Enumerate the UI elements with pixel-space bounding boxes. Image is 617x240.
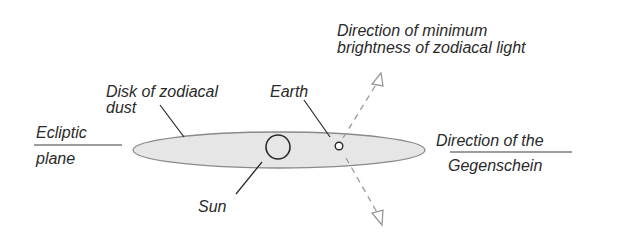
zodiacal-dust-disk — [133, 132, 425, 168]
disk-leader-line — [160, 105, 184, 137]
zodiacal-diagram: Ecliptic plane Disk of zodiacal dust Ear… — [0, 0, 617, 240]
earth-icon — [335, 142, 343, 150]
gegenschein-label-line2: Gegenschein — [448, 157, 542, 174]
min-brightness-direction-line — [343, 83, 377, 138]
min-brightness-label-line1: Direction of minimum — [337, 22, 487, 39]
earth-label: Earth — [270, 83, 308, 100]
min-brightness-label-line2: brightness of zodiacal light — [337, 39, 526, 56]
min-brightness-arrowhead-icon — [372, 73, 383, 86]
sun-label: Sun — [198, 198, 227, 215]
lower-arrowhead-icon — [372, 210, 383, 225]
disk-label-line1: Disk of zodiacal — [106, 83, 218, 100]
earth-leader-line — [304, 100, 330, 137]
disk-label-line2: dust — [106, 99, 137, 116]
gegenschein-label-line1: Direction of the — [436, 132, 544, 149]
ecliptic-label-line2: plane — [35, 150, 75, 167]
ecliptic-label-line1: Ecliptic — [36, 124, 87, 141]
gegenschein-lower-direction-line — [346, 158, 378, 214]
